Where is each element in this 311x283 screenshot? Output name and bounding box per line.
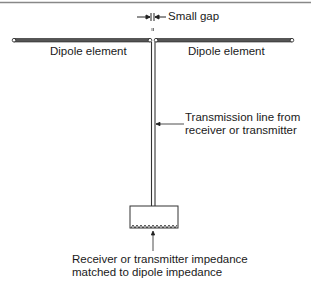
receiver-box [130, 206, 178, 228]
impedance-label-2: matched to dipole impedance [72, 266, 222, 279]
transmission-line-label-2: receiver or transmitter [185, 124, 297, 137]
small-gap-label: Small gap [168, 10, 219, 23]
dipole-right [154, 38, 294, 42]
dipole-diagram [0, 0, 311, 283]
dipole-left [12, 38, 152, 42]
dipole-element-right-label: Dipole element [188, 45, 265, 58]
transmission-line-label-1: Transmission line from [185, 111, 300, 124]
impedance-pointer [151, 231, 154, 251]
dipole-element-left-label: Dipole element [50, 45, 127, 58]
transmission-line-pointer [156, 122, 184, 125]
gap-indicator [137, 13, 166, 31]
transmission-line [152, 42, 156, 206]
impedance-label-1: Receiver or transmitter impedance [72, 253, 248, 266]
